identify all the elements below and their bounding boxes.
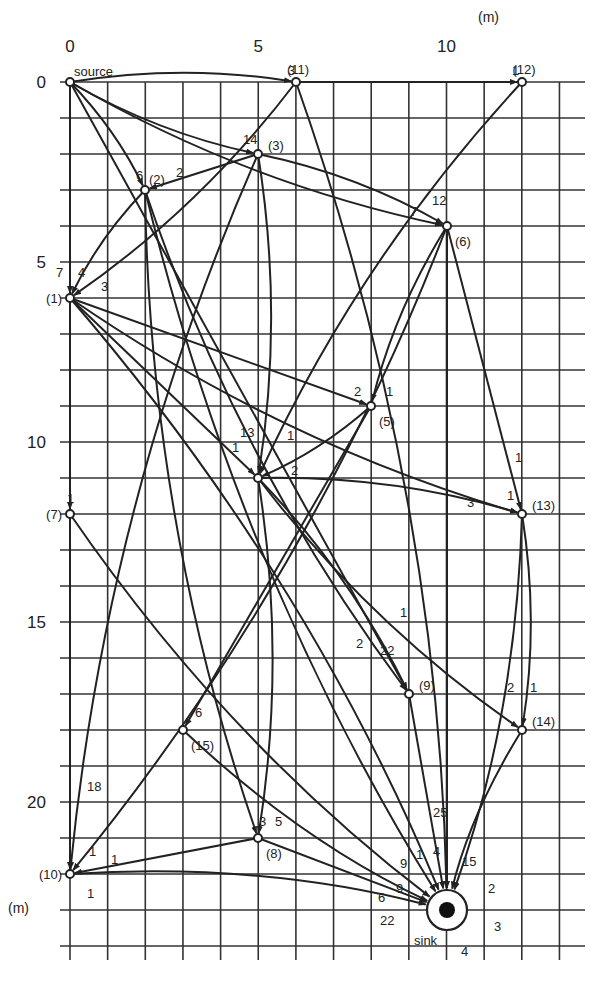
weight-label: 22 [380, 913, 394, 928]
edge-arrow [258, 478, 273, 833]
weight-label: 5 [275, 814, 282, 829]
node-14 [518, 726, 526, 734]
node-9 [405, 690, 413, 698]
weight-label: 3 [288, 63, 295, 78]
weight-label: 2 [354, 384, 361, 399]
sink-node-dot [439, 902, 455, 918]
x-tick-label: 5 [254, 37, 263, 56]
y-unit-label: (m) [8, 900, 29, 916]
weight-label: 13 [240, 425, 254, 440]
weight-label: 1 [386, 384, 393, 399]
sink-label: sink [414, 933, 438, 948]
weight-label: 4 [433, 844, 440, 859]
weight-label: 15 [462, 854, 476, 869]
node-13 [518, 510, 526, 518]
node-2 [141, 186, 149, 194]
grid [60, 82, 585, 960]
edge-arrow [70, 82, 143, 185]
edge-arrow [75, 838, 258, 873]
network-diagram: 051005101520 (11)(12)(3)(2)(6)(1)(5)(7)(… [0, 0, 592, 983]
weight-label: 22 [380, 643, 394, 658]
edge-arrow [263, 406, 371, 476]
node-15 [179, 726, 187, 734]
weight-label: 25 [433, 805, 447, 820]
edge-arrow [145, 190, 256, 833]
nodes: (11)(12)(3)(2)(6)(1)(5)(7)(13)(9)(14)(15… [39, 62, 555, 930]
weight-label: 1 [89, 844, 96, 859]
node-label: (1) [46, 291, 62, 306]
node-label: (13) [532, 498, 555, 513]
x-unit-label: (m) [478, 9, 499, 25]
weight-label: 1 [512, 63, 519, 78]
weight-label: 1 [287, 428, 294, 443]
x-tick-label: 10 [437, 37, 456, 56]
weight-label: 3 [259, 814, 266, 829]
node-label: (15) [191, 738, 214, 753]
weight-label: 2 [356, 636, 363, 651]
weight-label: 9 [396, 881, 403, 896]
weight-label: 1 [232, 440, 239, 455]
weight-label: 2 [291, 463, 298, 478]
node-1 [66, 294, 74, 302]
node-label: (5) [379, 414, 395, 429]
weight-label: 1 [416, 847, 423, 862]
weight-label: 4 [78, 265, 85, 280]
weight-label: 6 [136, 168, 143, 183]
edge-arrow [186, 406, 371, 726]
edge-arrow [258, 478, 518, 727]
weight-label: 1 [507, 488, 514, 503]
weight-label: 4 [461, 944, 468, 959]
node-6 [443, 222, 451, 230]
weight-label: 12 [432, 193, 446, 208]
weight-label: 1 [87, 886, 94, 901]
x-tick-label: 0 [65, 37, 74, 56]
weight-label: 1 [530, 680, 537, 695]
weight-label: 2 [507, 680, 514, 695]
y-tick-label: 10 [27, 433, 46, 452]
node-label: (3) [268, 138, 284, 153]
weight-label: 18 [87, 779, 101, 794]
y-tick-label: 5 [37, 253, 46, 272]
weight-label: 1 [111, 852, 118, 867]
weight-label: 14 [243, 132, 257, 147]
weight-label: 1 [400, 605, 407, 620]
edge-arrow [454, 514, 522, 889]
weight-label: 3 [494, 919, 501, 934]
source-label: source [74, 64, 113, 79]
node-source [66, 78, 74, 86]
node-label: (10) [39, 867, 62, 882]
edge-arrow [70, 871, 426, 904]
weight-label: 6 [378, 890, 385, 905]
edge-arrow [70, 298, 254, 475]
node-label: (7) [46, 507, 62, 522]
weight-label: 7 [410, 204, 417, 219]
weight-label: 3 [101, 279, 108, 294]
edges [70, 73, 531, 905]
node-12 [518, 78, 526, 86]
weight-label: 7 [56, 265, 63, 280]
edge-arrow [258, 478, 517, 513]
node-label: (9) [419, 678, 435, 693]
y-tick-label: 20 [27, 793, 46, 812]
weight-label: 1 [515, 450, 522, 465]
node-3 [254, 150, 262, 158]
node-label: (6) [455, 234, 471, 249]
node-label: (2) [149, 172, 165, 187]
weight-label: 2 [176, 165, 183, 180]
weight-label: 6 [195, 705, 202, 720]
y-tick-label: 15 [27, 613, 46, 632]
weight-label: 2 [488, 881, 495, 896]
node-5 [367, 402, 375, 410]
weight-label: 3 [467, 495, 474, 510]
node-4 [254, 474, 262, 482]
node-8 [254, 834, 262, 842]
node-7 [66, 510, 74, 518]
weight-label: 9 [400, 856, 407, 871]
node-label: (14) [532, 714, 555, 729]
node-11 [292, 78, 300, 86]
y-tick-label: 0 [37, 73, 46, 92]
edge-arrow [150, 154, 258, 188]
node-label: (8) [266, 846, 282, 861]
node-10 [66, 870, 74, 878]
weight-label: 1 [67, 491, 74, 506]
